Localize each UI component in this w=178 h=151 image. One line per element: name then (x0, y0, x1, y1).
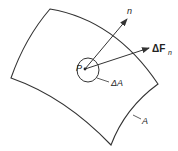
label-normal: n (127, 6, 132, 16)
force-vector-arrow (85, 48, 149, 69)
label-point-p: P (76, 63, 82, 73)
label-area: A (141, 116, 148, 126)
delta-a-leader (97, 78, 109, 82)
label-force: ΔF (152, 43, 165, 54)
label-small-area: ΔA (110, 78, 123, 88)
area-a-leader (133, 115, 141, 119)
normal-vector-arrow (85, 19, 127, 69)
surface-area-a (11, 9, 158, 145)
stress-diagram: n ΔF n P ΔA A (0, 0, 178, 151)
label-force-subscript: n (168, 49, 172, 56)
